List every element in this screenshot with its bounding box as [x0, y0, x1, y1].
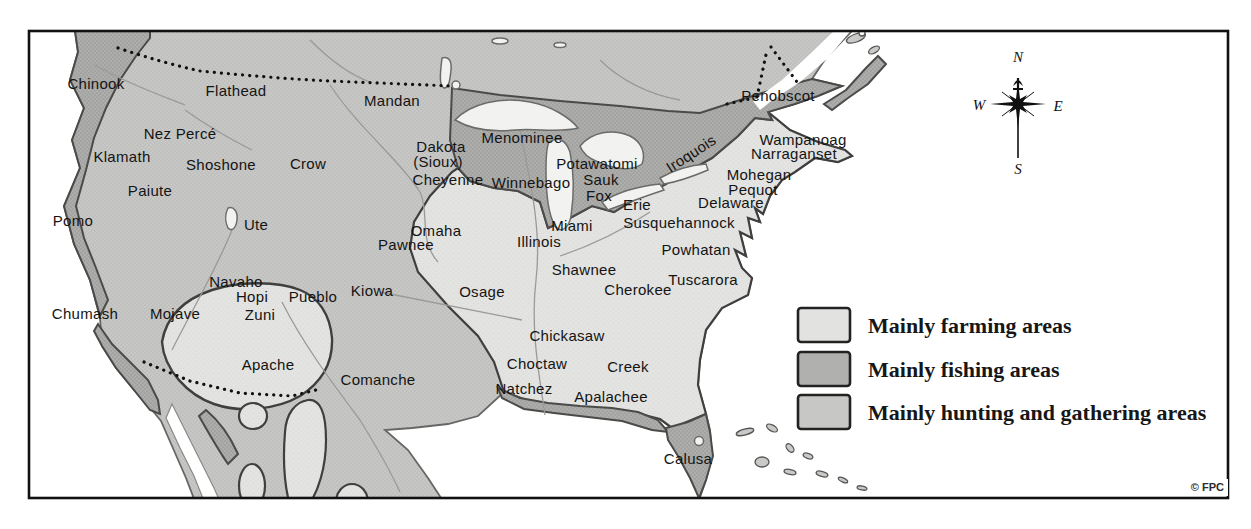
- tribe-label-shoshone: Shoshone: [186, 156, 256, 173]
- tribe-label-apache: Apache: [242, 356, 295, 373]
- tribe-label-comanche: Comanche: [341, 371, 416, 388]
- compass-north: N: [1012, 49, 1024, 65]
- tribe-label-potawatomi: Potawatomi: [556, 155, 637, 172]
- tribe-label-calusa: Calusa: [664, 450, 713, 467]
- legend-label-hunting: Mainly hunting and gathering areas: [868, 400, 1207, 425]
- tribe-label-mojave: Mojave: [150, 305, 200, 322]
- tribe-label-flathead: Flathead: [206, 82, 267, 99]
- tribe-label-apalachee: Apalachee: [574, 388, 648, 405]
- tribe-label-mandan: Mandan: [364, 92, 420, 109]
- tribe-label-winnebago: Winnebago: [492, 174, 571, 191]
- tribe-label-miami: Miami: [551, 217, 593, 234]
- tribe-label-shawnee: Shawnee: [552, 261, 617, 278]
- tribe-label-sauk: Sauk: [583, 171, 619, 188]
- region-farming-mexico-2: [239, 403, 267, 429]
- lake-winnipeg: [440, 58, 451, 89]
- tribe-label-erie: Erie: [623, 196, 651, 213]
- tribe-label-pueblo: Pueblo: [289, 288, 338, 305]
- tribe-label-ute: Ute: [244, 216, 268, 233]
- tribe-label-tuscarora: Tuscarora: [668, 271, 738, 288]
- tribe-label-pomo: Pomo: [53, 212, 93, 229]
- copyright-text: © FPC: [1191, 481, 1224, 493]
- tribe-label-cheyenne: Cheyenne: [413, 171, 484, 188]
- tribe-label-choctaw: Choctaw: [507, 355, 567, 372]
- lake-okeechobee: [695, 437, 704, 446]
- legend-label-farming: Mainly farming areas: [868, 313, 1072, 338]
- tribe-label-natchez: Natchez: [495, 380, 552, 397]
- tribe-label-osage: Osage: [459, 283, 505, 300]
- tribe-label-chickasaw: Chickasaw: [529, 327, 604, 344]
- lake-of-the-woods: [452, 81, 460, 89]
- great-salt-lake: [226, 208, 237, 230]
- tribe-label-powhatan: Powhatan: [661, 241, 730, 258]
- legend-swatch-fishing: [798, 352, 850, 386]
- compass-south: S: [1014, 161, 1022, 177]
- tribe-label-fox: Fox: [586, 187, 612, 204]
- legend-swatch-farming: [798, 308, 850, 342]
- map-screenshot: ChinookFlatheadMandanNez PercéKlamathSho…: [0, 0, 1251, 529]
- legend-label-fishing: Mainly fishing areas: [868, 357, 1060, 382]
- tribe-label-menominee: Menominee: [481, 129, 562, 146]
- tribe-label-penobscot: Penobscot: [741, 87, 815, 104]
- legend-swatch-hunting: [798, 395, 850, 429]
- tribal-areas-map: ChinookFlatheadMandanNez PercéKlamathSho…: [0, 0, 1251, 529]
- tribe-label-chinook: Chinook: [67, 75, 124, 92]
- compass-east: E: [1052, 98, 1062, 114]
- tribe-label-cherokee: Cherokee: [604, 281, 671, 298]
- compass-west: W: [973, 97, 987, 113]
- tribe-label-creek: Creek: [607, 358, 649, 375]
- tribe-label-sioux: (Sioux): [413, 153, 463, 170]
- tribe-label-kiowa: Kiowa: [351, 282, 394, 299]
- tribe-label-nez-perc: Nez Percé: [144, 125, 217, 142]
- tribe-label-illinois: Illinois: [517, 233, 561, 250]
- tribe-label-chumash: Chumash: [52, 305, 118, 322]
- tribe-label-klamath: Klamath: [93, 148, 150, 165]
- tribe-label-crow: Crow: [290, 155, 326, 172]
- tribe-label-paiute: Paiute: [128, 182, 172, 199]
- tribe-label-delaware: Delaware: [698, 194, 764, 211]
- tribe-label-hopi: Hopi: [236, 288, 268, 305]
- tribe-label-susquehannock: Susquehannock: [623, 214, 735, 231]
- tribe-label-narraganset: Narraganset: [751, 145, 837, 162]
- tribe-label-zuni: Zuni: [245, 306, 275, 323]
- tribe-label-pawnee: Pawnee: [378, 236, 434, 253]
